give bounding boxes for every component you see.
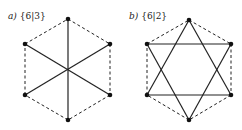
vertex-dot: [145, 93, 150, 98]
solid-edge: [189, 20, 231, 95]
vertex-dot: [108, 42, 113, 47]
solid-edge: [147, 20, 189, 95]
dashed-edge: [68, 95, 110, 120]
vertex-dot: [187, 118, 192, 123]
vertex-dot: [23, 93, 28, 98]
dashed-edge: [68, 19, 110, 44]
vertex-dot: [229, 93, 234, 98]
vertex-dot: [187, 18, 192, 23]
diagram-a: [23, 17, 113, 123]
dashed-edge: [25, 95, 68, 120]
vertex-dot: [66, 17, 71, 22]
vertex-dot: [108, 93, 113, 98]
vertex-dot: [23, 42, 28, 47]
dashed-edge: [25, 19, 68, 44]
solid-edge: [189, 44, 231, 120]
diagram-b: [145, 18, 234, 123]
vertex-dot: [229, 42, 234, 47]
vertex-dot: [145, 42, 150, 47]
solid-edge: [147, 44, 189, 120]
diagram-canvas: [0, 0, 242, 130]
vertex-dot: [66, 118, 71, 123]
